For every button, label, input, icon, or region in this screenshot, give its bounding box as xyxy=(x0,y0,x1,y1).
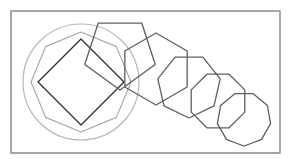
polygon-diagram xyxy=(0,0,291,159)
inscribed-octagon xyxy=(31,32,131,132)
nonagon xyxy=(217,94,270,146)
inscribed-square xyxy=(38,39,124,125)
circumscribed-circle xyxy=(23,24,139,140)
diagram-canvas xyxy=(0,0,291,159)
hexagon xyxy=(125,33,187,105)
heptagon xyxy=(158,57,220,118)
polygon-chain xyxy=(85,23,271,146)
